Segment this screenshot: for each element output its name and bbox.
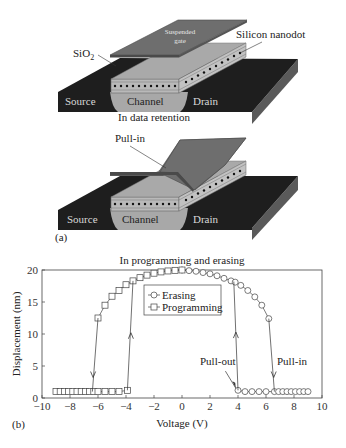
device-data-retention: Suspended gate SiO2 Silicon nanodot Sour… — [58, 20, 305, 124]
x-tick-label: 8 — [291, 400, 297, 412]
panel-b-label: (b) — [12, 418, 25, 431]
drain-label-top: Drain — [193, 95, 219, 107]
y-axis-label: Displacement (nm) — [10, 291, 23, 376]
x-tick-label: 10 — [317, 400, 329, 412]
data-point-programming — [102, 389, 108, 395]
data-point-erasing — [193, 268, 199, 274]
data-point-programming — [172, 267, 178, 273]
data-point-erasing — [207, 271, 213, 277]
y-tick-label: 20 — [27, 264, 39, 276]
data-point-erasing — [259, 302, 265, 308]
x-tick-label: −4 — [120, 400, 132, 412]
data-point-programming — [116, 287, 122, 293]
data-point-programming — [109, 293, 115, 299]
chart-title: In programming and erasing — [120, 254, 245, 266]
data-point-programming — [109, 389, 115, 395]
data-point-programming — [158, 269, 164, 275]
drain-label-bottom: Drain — [193, 213, 219, 225]
y-tick-label: 10 — [27, 328, 39, 340]
data-point-erasing — [186, 268, 192, 274]
y-tick-label: 15 — [27, 296, 39, 308]
data-point-erasing — [252, 294, 258, 300]
x-tick-label: 0 — [179, 400, 185, 412]
legend-erasing: Erasing — [162, 289, 196, 301]
data-point-erasing — [263, 389, 269, 395]
device-pull-in: Pull-in Source Channel Drain — [58, 132, 298, 240]
data-point-programming — [116, 389, 122, 395]
displacement-voltage-chart: In programming and erasing −10−8−6−4−202… — [0, 245, 346, 448]
x-tick-label: −8 — [64, 400, 76, 412]
x-tick-label: 4 — [235, 400, 241, 412]
panel-a-label: (a) — [55, 231, 68, 244]
pullin-leader-line — [130, 146, 166, 168]
legend-square-marker-icon — [151, 304, 157, 310]
gate-label-line1: Suspended — [165, 28, 196, 36]
data-point-erasing — [249, 389, 255, 395]
data-point-erasing — [232, 279, 238, 285]
legend-circle-marker-icon — [151, 292, 157, 298]
arrowhead-icon — [271, 372, 276, 378]
caption-data-retention: In data retention — [118, 111, 191, 123]
data-point-programming — [165, 268, 171, 274]
x-tick-label: 6 — [263, 400, 269, 412]
nanodot-label: Silicon nanodot — [236, 28, 305, 40]
data-point-erasing — [200, 270, 206, 276]
chart-legend: Erasing Programming — [144, 285, 223, 315]
arrowhead-icon — [128, 333, 133, 339]
data-point-erasing — [221, 275, 227, 281]
data-point-programming — [137, 275, 143, 281]
source-label-bottom: Source — [67, 213, 98, 225]
data-point-programming — [179, 267, 185, 273]
channel-label-bottom: Channel — [122, 213, 159, 225]
data-point-programming — [123, 282, 129, 288]
legend-programming: Programming — [162, 301, 223, 313]
annotation-pull-out: Pull-out — [200, 355, 235, 367]
x-tick-label: −2 — [148, 400, 160, 412]
data-point-programming — [95, 389, 101, 395]
annotation-pull-in: Pull-in — [277, 355, 307, 367]
channel-label-top: Channel — [127, 95, 164, 107]
source-label-top: Source — [65, 95, 96, 107]
arrowhead-icon — [91, 372, 96, 378]
data-point-erasing — [242, 389, 248, 395]
data-point-erasing — [256, 389, 262, 395]
x-axis-label: Voltage (V) — [156, 417, 208, 430]
data-point-programming — [151, 270, 157, 276]
data-point-erasing — [214, 273, 220, 279]
data-point-programming — [102, 302, 108, 308]
pullin-label-diagram: Pull-in — [115, 132, 145, 144]
data-point-programming — [144, 272, 150, 278]
y-tick-label: 0 — [33, 392, 39, 404]
panel-a-diagrams: Suspended gate SiO2 Silicon nanodot Sour… — [0, 0, 346, 245]
x-tick-label: −6 — [92, 400, 104, 412]
sio2-label: SiO2 — [73, 47, 94, 62]
y-tick-label: 5 — [33, 360, 39, 372]
data-point-erasing — [245, 287, 251, 293]
data-point-erasing — [238, 282, 244, 288]
gate-label-line2: gate — [174, 37, 186, 45]
x-tick-label: 2 — [207, 400, 213, 412]
data-point-erasing — [305, 389, 311, 395]
